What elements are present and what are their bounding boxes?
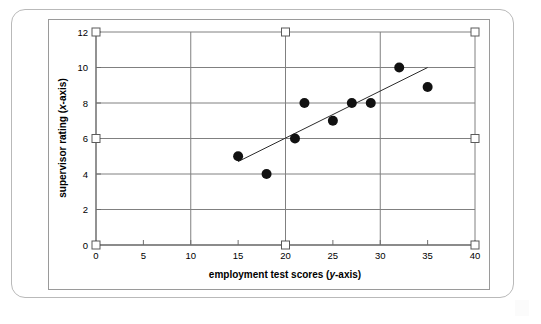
title-text-part: -axis) [335,269,361,280]
y-tick-label: 8 [83,98,88,109]
selection-handle[interactable] [471,241,479,249]
data-point[interactable] [299,98,309,108]
selection-handle[interactable] [471,28,479,36]
x-tick-label: 20 [280,250,291,261]
x-tick-label: 25 [328,250,339,261]
x-tick-label: 15 [233,250,244,261]
y-tick-label: 4 [83,169,88,180]
y-axis-title: supervisor rating (x-axis) [57,78,68,198]
data-point[interactable] [262,169,272,179]
y-tick-label: 0 [83,240,88,251]
selection-handle[interactable] [92,241,100,249]
data-point[interactable] [347,98,357,108]
title-text-part: supervisor rating ( [57,109,68,197]
x-axis-tick-labels: 0510152025303540 [93,250,480,261]
x-tick-label: 5 [141,250,146,261]
screenshot-root: 0510152025303540 024681012 employment te… [0,0,541,324]
trend-line[interactable] [238,68,428,162]
title-text-part: -axis) [57,78,68,104]
selection-handle[interactable] [282,241,290,249]
corner-artifact [515,300,529,316]
y-tick-label: 6 [83,133,88,144]
selection-handle[interactable] [471,135,479,143]
scatter-plot[interactable]: 0510152025303540 024681012 employment te… [0,0,541,324]
data-point[interactable] [366,98,376,108]
data-point[interactable] [233,151,243,161]
y-tick-label: 12 [77,27,88,38]
selection-handle[interactable] [282,28,290,36]
x-tick-label: 30 [375,250,386,261]
x-tick-label: 10 [185,250,196,261]
x-axis-title: employment test scores (y-axis) [209,269,361,280]
x-tick-label: 0 [93,250,98,261]
x-tick-label: 35 [422,250,433,261]
data-point[interactable] [423,82,433,92]
y-axis-tick-labels: 024681012 [77,27,88,251]
x-tick-label: 40 [470,250,481,261]
y-tick-label: 10 [77,62,88,73]
data-point[interactable] [290,134,300,144]
data-point[interactable] [328,116,338,126]
selection-handle[interactable] [92,28,100,36]
y-tick-label: 2 [83,204,88,215]
data-point[interactable] [394,63,404,73]
title-text-part: employment test scores ( [209,269,330,280]
selection-handle[interactable] [92,135,100,143]
